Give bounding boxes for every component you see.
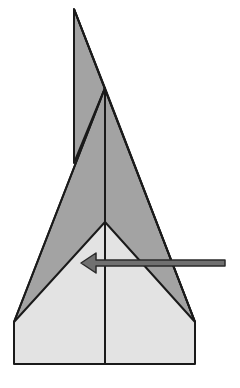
paper-airplane-diagram: Paper airplane folding step: [0, 0, 240, 388]
diagram-canvas: [0, 0, 240, 388]
